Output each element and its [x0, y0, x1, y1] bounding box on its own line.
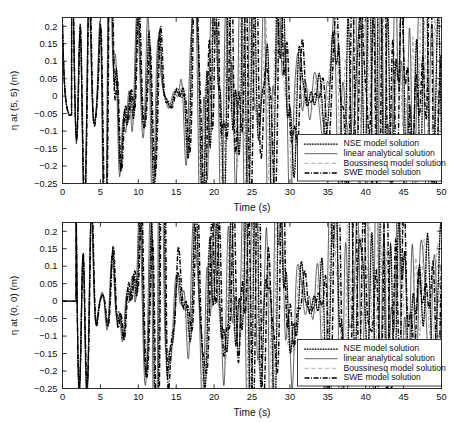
x-tick-label: 35	[323, 392, 333, 402]
y-tick-label: 0.2	[45, 22, 58, 32]
caption-strip-cropped	[0, 412, 465, 426]
y-tick-label: 0.05	[39, 74, 57, 84]
legend-label-1: linear analytical solution	[344, 353, 435, 363]
y-tick-label: 0.1	[45, 261, 58, 271]
y-tick-label: 0	[52, 296, 57, 306]
y-tick-label: 0.15	[39, 244, 57, 254]
x-tick-label: 45	[398, 392, 408, 402]
x-tick-label: 0	[60, 187, 65, 197]
y-axis-title: η at (0, 0) (m)	[8, 276, 19, 335]
y-tick-label: −0.2	[39, 366, 57, 376]
y-axis-title: η at (5, 5) (m)	[8, 71, 19, 130]
x-tick-label: 0	[60, 392, 65, 402]
x-tick-label: 25	[247, 187, 257, 197]
y-tick-label: 0	[52, 91, 57, 101]
chart-svg-eta-5-5: 05101520253035404550−0.25−0.2−0.15−0.1−0…	[0, 0, 465, 213]
x-tick-label: 30	[285, 187, 295, 197]
y-tick-label: 0.15	[39, 39, 57, 49]
x-tick-label: 45	[398, 187, 408, 197]
x-tick-label: 50	[436, 392, 446, 402]
legend-label-2: Boussinesq model solution	[344, 158, 446, 168]
x-tick-label: 40	[361, 392, 371, 402]
y-tick-label: −0.05	[34, 109, 58, 119]
x-tick-label: 40	[361, 187, 371, 197]
figure-wave-elevation-time-series: 05101520253035404550−0.25−0.2−0.15−0.1−0…	[0, 0, 465, 426]
y-tick-label: −0.15	[34, 349, 58, 359]
y-tick-label: 0.2	[45, 227, 58, 237]
x-tick-label: 5	[98, 392, 103, 402]
chart-svg-eta-0-0: 05101520253035404550−0.25−0.2−0.15−0.1−0…	[0, 205, 465, 418]
y-tick-label: −0.15	[34, 144, 58, 154]
x-tick-label: 10	[133, 187, 143, 197]
y-tick-label: −0.25	[34, 179, 58, 189]
x-tick-label: 10	[133, 392, 143, 402]
x-tick-label: 25	[247, 392, 257, 402]
y-tick-label: −0.1	[39, 126, 57, 136]
legend-label-2: Boussinesq model solution	[344, 363, 446, 373]
x-tick-label: 5	[98, 187, 103, 197]
legend-label-1: linear analytical solution	[344, 148, 435, 158]
x-tick-label: 50	[436, 187, 446, 197]
y-tick-label: 0.1	[45, 56, 58, 66]
x-tick-label: 30	[285, 392, 295, 402]
x-tick-label: 20	[209, 392, 219, 402]
y-tick-label: −0.1	[39, 331, 57, 341]
x-tick-label: 15	[171, 392, 181, 402]
y-tick-label: −0.2	[39, 161, 57, 171]
x-tick-label: 20	[209, 187, 219, 197]
x-tick-label: 15	[171, 187, 181, 197]
y-tick-label: −0.05	[34, 314, 58, 324]
legend-label-0: NSE model solution	[344, 138, 420, 148]
x-tick-label: 35	[323, 187, 333, 197]
chart-panel-eta-5-5: 05101520253035404550−0.25−0.2−0.15−0.1−0…	[0, 0, 465, 213]
legend-label-0: NSE model solution	[344, 343, 420, 353]
y-tick-label: 0.05	[39, 279, 57, 289]
chart-panel-eta-0-0: 05101520253035404550−0.25−0.2−0.15−0.1−0…	[0, 205, 465, 418]
legend-label-3: SWE model solution	[344, 167, 422, 177]
legend-label-3: SWE model solution	[344, 372, 422, 382]
y-tick-label: −0.25	[34, 384, 58, 394]
